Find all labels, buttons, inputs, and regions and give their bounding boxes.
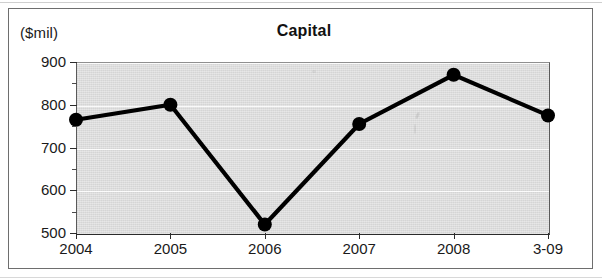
x-axis-tick-label: 2007 (324, 240, 394, 257)
scan-artifact-bottom (0, 277, 602, 278)
y-axis-tick-major (70, 62, 77, 63)
x-axis-tick-label: 3-09 (513, 240, 583, 257)
y-axis-tick-minor (72, 126, 77, 127)
x-axis-tick (454, 233, 455, 239)
x-axis-tick-label: 2006 (230, 240, 300, 257)
chart-title: Capital (0, 22, 602, 40)
scan-speckle (312, 70, 316, 73)
scan-artifact-top (0, 2, 602, 3)
data-point-marker (352, 117, 366, 131)
data-point-marker (447, 68, 461, 82)
x-axis-tick (170, 233, 171, 239)
data-point-marker (541, 108, 555, 122)
y-axis-tick-label: 700 (18, 139, 66, 156)
chart-figure: ($mil) Capital 5006007008009002004200520… (0, 0, 602, 280)
data-point-marker (163, 98, 177, 112)
y-axis-tick-label: 900 (18, 53, 66, 70)
y-axis-tick-major (70, 148, 77, 149)
x-axis-tick (548, 233, 549, 239)
x-axis-tick-label: 2004 (41, 240, 111, 257)
y-axis-tick-label: 500 (18, 224, 66, 241)
data-point-marker (69, 113, 83, 127)
data-point-marker (258, 217, 272, 231)
x-axis-tick-label: 2005 (135, 240, 205, 257)
y-axis-tick-minor (72, 212, 77, 213)
series-line-capital (76, 75, 548, 225)
y-axis-tick-label: 600 (18, 181, 66, 198)
y-axis-tick-minor (72, 83, 77, 84)
y-axis-tick-label: 800 (18, 96, 66, 113)
scan-speckle (414, 124, 416, 134)
y-axis-tick-major (70, 105, 77, 106)
x-axis-tick (265, 233, 266, 239)
y-axis-tick-major (70, 190, 77, 191)
x-axis-tick (76, 233, 77, 239)
y-axis-tick-minor (72, 169, 77, 170)
x-axis-tick (359, 233, 360, 239)
series-markers-capital (69, 68, 555, 232)
x-axis-tick-label: 2008 (419, 240, 489, 257)
series-overlay (76, 62, 549, 234)
chart-title-text: Capital (277, 22, 332, 39)
